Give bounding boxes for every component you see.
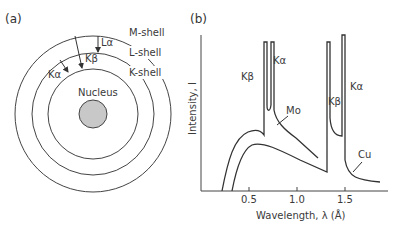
- cu-leader: [353, 162, 362, 172]
- cu-curve: [232, 35, 380, 191]
- k-alpha-arrow: [60, 60, 68, 72]
- k-shell-label: K-shell: [129, 67, 161, 78]
- l-shell-label: L-shell: [129, 47, 161, 58]
- mo-kalpha-label: Kα: [273, 55, 287, 66]
- tick-1-5: 1.5: [337, 194, 353, 205]
- cu-kalpha-label: Kα: [350, 81, 364, 92]
- y-axis-label: Intensity, I: [187, 82, 198, 135]
- l-alpha-label: Lα: [101, 37, 114, 48]
- mo-kbeta-label: Kβ: [241, 71, 254, 82]
- panel-b: (b) 0.5 1.0 1.5 Wavelength, λ (Å) Intens…: [187, 12, 388, 221]
- k-beta-arrow: [75, 36, 82, 68]
- panel-a: (a) Nucleus M-shell L-shell K-shell Lα K…: [5, 12, 171, 192]
- tick-0-5: 0.5: [241, 194, 257, 205]
- x-axis-label: Wavelength, λ (Å): [256, 209, 346, 221]
- k-beta-label: Kβ: [85, 53, 98, 64]
- cu-kbeta-label: Kβ: [328, 96, 341, 107]
- nucleus: [79, 100, 107, 128]
- k-alpha-label: Kα: [48, 69, 62, 80]
- figure: (a) Nucleus M-shell L-shell K-shell Lα K…: [0, 0, 403, 237]
- mo-curve: [222, 42, 318, 191]
- tick-1-0: 1.0: [289, 194, 305, 205]
- cu-label: Cu: [358, 149, 371, 160]
- m-shell-label: M-shell: [129, 27, 165, 38]
- mo-label: Mo: [286, 105, 301, 116]
- panel-b-label: (b): [190, 12, 207, 26]
- panel-a-label: (a): [5, 12, 22, 26]
- nucleus-label: Nucleus: [78, 87, 118, 98]
